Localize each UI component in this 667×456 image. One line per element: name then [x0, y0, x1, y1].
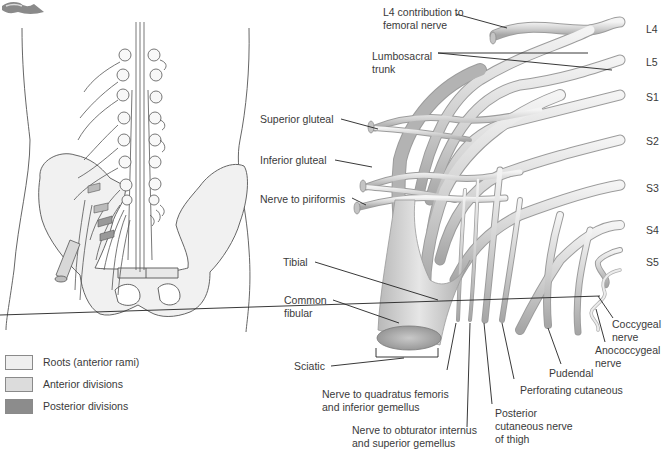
label-obturator-line2: and superior gemellus — [352, 437, 455, 450]
legend: Roots (anterior rami) Anterior divisions… — [5, 351, 139, 417]
label-lumbosacral-line1: Lumbosacral — [372, 50, 432, 63]
legend-swatch-anterior — [5, 377, 33, 392]
label-posterior-cutaneous-line2: cutaneous nerve — [495, 420, 573, 433]
label-nerve-to-piriformis: Nerve to piriformis — [260, 193, 345, 206]
label-root-s2: S2 — [646, 135, 659, 148]
label-root-s3: S3 — [646, 182, 659, 195]
label-sciatic: Sciatic — [294, 360, 325, 373]
label-root-s5: S5 — [646, 256, 659, 269]
label-root-l5: L5 — [646, 56, 658, 69]
label-root-s4: S4 — [646, 224, 659, 237]
label-common-fibular-line2: fibular — [284, 307, 313, 320]
label-obturator-line1: Nerve to obturator internus — [352, 424, 477, 437]
label-superior-gluteal: Superior gluteal — [260, 113, 334, 126]
label-common-fibular-line1: Common — [284, 294, 327, 307]
legend-swatch-roots — [5, 355, 33, 370]
legend-swatch-posterior — [5, 399, 33, 414]
label-pudendal: Pudendal — [549, 367, 593, 380]
label-lumbosacral-line2: trunk — [372, 63, 395, 76]
corner-figure-icon — [2, 2, 44, 14]
label-root-l4: L4 — [646, 23, 658, 36]
label-l4-femoral-line2: femoral nerve — [383, 19, 447, 32]
label-posterior-cutaneous-line3: of thigh — [495, 433, 529, 446]
legend-item-roots: Roots (anterior rami) — [5, 351, 139, 373]
label-anococcygeal-line2: nerve — [595, 357, 621, 370]
legend-label-roots: Roots (anterior rami) — [43, 356, 139, 368]
label-quadratus-line1: Nerve to quadratus femoris — [322, 388, 449, 401]
label-root-s1: S1 — [646, 91, 659, 104]
legend-item-anterior: Anterior divisions — [5, 373, 139, 395]
label-l4-femoral-line1: L4 contribution to — [383, 6, 464, 19]
label-perforating-cutaneous: Perforating cutaneous — [520, 384, 623, 397]
label-tibial: Tibial — [283, 256, 308, 269]
legend-item-posterior: Posterior divisions — [5, 395, 139, 417]
label-coccygeal-line2: nerve — [612, 331, 638, 344]
label-coccygeal-line1: Coccygeal — [612, 318, 661, 331]
legend-label-posterior: Posterior divisions — [43, 400, 128, 412]
legend-label-anterior: Anterior divisions — [43, 378, 123, 390]
label-anococcygeal-line1: Anococcygeal — [595, 344, 660, 357]
label-inferior-gluteal: Inferior gluteal — [260, 154, 327, 167]
sacral-plexus-figure: L4 contribution to femoral nerve Lumbosa… — [0, 0, 667, 456]
label-posterior-cutaneous-line1: Posterior — [495, 407, 537, 420]
label-quadratus-line2: and inferior gemellus — [322, 401, 419, 414]
